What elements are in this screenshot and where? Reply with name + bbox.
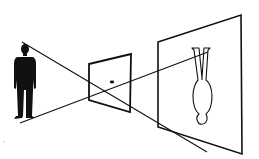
person-silhouette bbox=[14, 44, 36, 119]
pinhole-icon bbox=[110, 81, 114, 84]
stray-mark bbox=[3, 141, 4, 142]
projection-screen bbox=[158, 15, 242, 154]
pinhole-projection-diagram bbox=[0, 0, 259, 159]
